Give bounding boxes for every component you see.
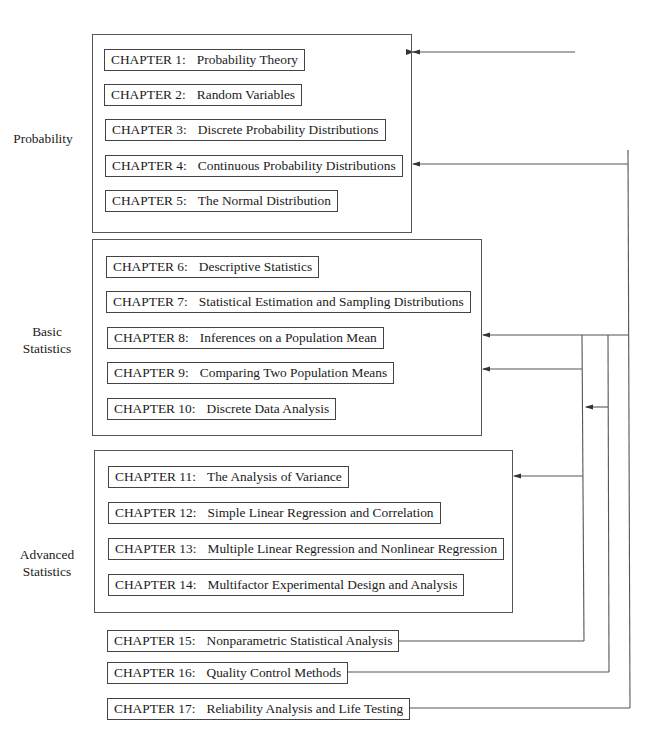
chapter-title: Inferences on a Population Mean	[200, 330, 377, 345]
chapter-box-4[interactable]: CHAPTER 4:Continuous Probability Distrib…	[105, 155, 403, 177]
chapter-number: CHAPTER 6:	[113, 257, 188, 277]
chapter-box-13[interactable]: CHAPTER 13:Multiple Linear Regression an…	[108, 538, 504, 560]
part-label-basic-statistics: Basic Statistics	[4, 323, 90, 357]
chapter-box-12[interactable]: CHAPTER 12:Simple Linear Regression and …	[108, 502, 441, 524]
chapter-title: Multiple Linear Regression and Nonlinear…	[207, 541, 497, 556]
chapter-title: Descriptive Statistics	[199, 259, 312, 274]
chapter-number: CHAPTER 16:	[114, 663, 195, 683]
chapter-number: CHAPTER 5:	[112, 191, 187, 211]
chapter-title: Comparing Two Population Means	[200, 365, 387, 380]
chapter-number: CHAPTER 13:	[115, 539, 196, 559]
chapter-title: Nonparametric Statistical Analysis	[206, 633, 392, 648]
chapter-box-14[interactable]: CHAPTER 14:Multifactor Experimental Desi…	[108, 574, 464, 596]
chapter-box-7[interactable]: CHAPTER 7:Statistical Estimation and Sam…	[106, 291, 471, 313]
chapter-title: The Normal Distribution	[198, 193, 331, 208]
part-label-line: Statistics	[4, 340, 90, 357]
chapter-box-1[interactable]: CHAPTER 1:Probability Theory	[104, 49, 305, 71]
part-label-line: Probability	[4, 130, 82, 147]
chapter-box-2[interactable]: CHAPTER 2:Random Variables	[104, 84, 302, 106]
chapter-number: CHAPTER 3:	[112, 120, 187, 140]
part-label-probability: Probability	[4, 130, 82, 147]
chapter-number: CHAPTER 2:	[111, 85, 186, 105]
part-label-line: Advanced	[4, 546, 90, 563]
chapter-title: Reliability Analysis and Life Testing	[206, 701, 403, 716]
part-label-line: Statistics	[4, 563, 90, 580]
chapter-box-10[interactable]: CHAPTER 10:Discrete Data Analysis	[107, 398, 336, 420]
chapter-box-11[interactable]: CHAPTER 11:The Analysis of Variance	[108, 466, 349, 488]
chapter-number: CHAPTER 1:	[111, 50, 186, 70]
chapter-number: CHAPTER 10:	[114, 399, 195, 419]
chapter-number: CHAPTER 11:	[115, 467, 196, 487]
chapter-title: Simple Linear Regression and Correlation	[207, 505, 433, 520]
chapter-box-3[interactable]: CHAPTER 3:Discrete Probability Distribut…	[105, 119, 386, 141]
chapter-title: Probability Theory	[197, 52, 298, 67]
part-label-line: Basic	[4, 323, 90, 340]
chapter-number: CHAPTER 4:	[112, 156, 187, 176]
chapter-box-16[interactable]: CHAPTER 16:Quality Control Methods	[107, 662, 348, 684]
chapter-number: CHAPTER 8:	[114, 328, 189, 348]
chapter-box-15[interactable]: CHAPTER 15:Nonparametric Statistical Ana…	[107, 630, 399, 652]
chapter-title: Discrete Probability Distributions	[198, 122, 379, 137]
chapter-title: Multifactor Experimental Design and Anal…	[207, 577, 457, 592]
chapter-number: CHAPTER 17:	[114, 699, 195, 719]
chapter-box-9[interactable]: CHAPTER 9:Comparing Two Population Means	[107, 362, 394, 384]
chapter-box-6[interactable]: CHAPTER 6:Descriptive Statistics	[106, 256, 319, 278]
chapter-title: The Analysis of Variance	[207, 469, 342, 484]
chapter-box-5[interactable]: CHAPTER 5:The Normal Distribution	[105, 190, 338, 212]
chapter-box-8[interactable]: CHAPTER 8:Inferences on a Population Mea…	[107, 327, 384, 349]
chapter-number: CHAPTER 14:	[115, 575, 196, 595]
chapter-number: CHAPTER 7:	[113, 292, 188, 312]
chapter-title: Random Variables	[197, 87, 295, 102]
chapter-box-17[interactable]: CHAPTER 17:Reliability Analysis and Life…	[107, 698, 410, 720]
chapter-title: Quality Control Methods	[206, 665, 341, 680]
chapter-number: CHAPTER 15:	[114, 631, 195, 651]
chapter-title: Statistical Estimation and Sampling Dist…	[199, 294, 464, 309]
part-label-advanced-statistics: Advanced Statistics	[4, 546, 90, 580]
chapter-number: CHAPTER 9:	[114, 363, 189, 383]
chapter-number: CHAPTER 12:	[115, 503, 196, 523]
chapter-title: Continuous Probability Distributions	[198, 158, 396, 173]
chapter-title: Discrete Data Analysis	[206, 401, 329, 416]
